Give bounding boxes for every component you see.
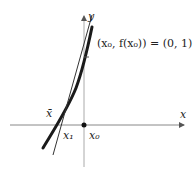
x-axis-label: x xyxy=(180,108,187,121)
y-axis-label: y xyxy=(87,10,95,23)
x1-label: x₁ xyxy=(63,129,74,142)
point-label: (x₀, f(x₀)) = (0, 1) xyxy=(97,37,192,50)
x0-label: x₀ xyxy=(89,129,100,142)
x-bar-label: x̄ xyxy=(46,107,53,120)
x0-point xyxy=(82,123,87,128)
newton-method-diagram: y x (x₀, f(x₀)) = (0, 1) x̄ x₁ x₀ xyxy=(0,0,195,175)
